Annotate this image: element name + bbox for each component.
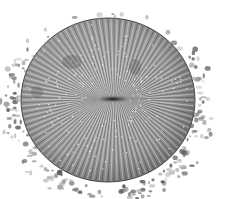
gravel-pebble: [24, 171, 30, 173]
gravel-pebble: [140, 188, 145, 192]
highlight-dot: [133, 85, 134, 86]
highlight-dot: [79, 110, 80, 111]
highlight-dot: [141, 80, 142, 81]
highlight-dot: [162, 91, 163, 92]
highlight-dot: [149, 117, 150, 118]
gravel-pebble: [23, 142, 29, 147]
gravel-pebble: [44, 167, 47, 171]
highlight-dot: [57, 84, 58, 85]
gravel-pebble: [72, 16, 78, 19]
highlight-dot: [105, 161, 106, 162]
gravel-pebble: [47, 36, 49, 38]
gravel-pebble: [202, 120, 206, 125]
highlight-dot: [94, 141, 95, 142]
highlight-dot: [60, 160, 61, 161]
gravel-pebble: [85, 184, 88, 187]
highlight-dot: [85, 138, 86, 139]
highlight-dot: [85, 97, 86, 98]
highlight-dot: [145, 111, 146, 112]
highlight-dot: [68, 103, 69, 104]
highlight-dot: [133, 95, 134, 96]
gravel-pebble: [147, 195, 151, 197]
gravel-pebble: [192, 47, 198, 52]
highlight-dot: [186, 88, 187, 89]
gravel-pebble: [162, 181, 166, 186]
highlight-dot: [102, 64, 103, 65]
highlight-dot: [180, 79, 181, 80]
highlight-dot: [49, 146, 50, 147]
highlight-dot: [95, 45, 96, 46]
gravel-pebble: [18, 140, 20, 142]
highlight-dot: [161, 129, 162, 130]
gravel-pebble: [69, 181, 74, 186]
gravel-pebble: [120, 12, 124, 17]
highlight-dot: [136, 141, 137, 142]
highlight-dot: [142, 109, 143, 110]
highlight-dot: [180, 82, 181, 83]
highlight-dot: [27, 86, 28, 87]
gravel-pebble: [22, 159, 27, 163]
highlight-dot: [68, 78, 69, 79]
gravel-pebble: [140, 180, 146, 184]
highlight-dot: [140, 105, 141, 106]
highlight-dot: [171, 81, 172, 82]
highlight-dot: [80, 55, 81, 56]
gravel-pebble: [29, 170, 32, 175]
gravel-pebble: [172, 42, 175, 45]
blotch-left: [62, 55, 82, 69]
gravel-pebble: [177, 159, 182, 163]
highlight-dot: [48, 78, 49, 79]
gravel-pebble: [7, 117, 13, 120]
gravel-pebble: [44, 28, 48, 32]
gravel-pebble: [204, 136, 209, 139]
gravel-pebble: [202, 80, 204, 83]
highlight-dot: [55, 105, 56, 106]
gravel-pebble: [16, 114, 21, 117]
highlight-dot: [48, 104, 49, 105]
highlight-dot: [96, 137, 97, 138]
highlight-dot: [157, 139, 158, 140]
gravel-pebble: [69, 179, 73, 181]
gravel-pebble: [22, 60, 26, 65]
gravel-pebble: [166, 30, 171, 35]
highlight-dot: [121, 136, 122, 137]
gravel-pebble: [165, 177, 168, 181]
highlight-dot: [82, 85, 83, 86]
gravel-pebble: [5, 94, 8, 96]
highlight-dot: [126, 71, 127, 72]
highlight-dot: [137, 94, 138, 95]
highlight-dot: [86, 145, 87, 146]
gravel-pebble: [135, 197, 139, 199]
gravel-pebble: [14, 119, 17, 124]
highlight-dot: [116, 136, 117, 137]
highlight-dot: [61, 122, 62, 123]
gravel-pebble: [166, 168, 171, 172]
highlight-dot: [91, 78, 92, 79]
gravel-pebble: [196, 161, 199, 164]
gravel-pebble: [189, 165, 195, 168]
highlight-dot: [58, 71, 59, 72]
highlight-dot: [51, 111, 52, 112]
highlight-dot: [127, 35, 128, 36]
gravel-pebble: [149, 184, 155, 188]
highlight-dot: [135, 107, 136, 108]
highlight-dot: [56, 73, 57, 74]
gravel-pebble: [181, 146, 185, 149]
highlight-dot: [111, 68, 112, 69]
highlight-dot: [133, 84, 134, 85]
highlight-dot: [102, 126, 103, 127]
gravel-pebble: [203, 73, 205, 78]
gravel-pebble: [51, 169, 54, 171]
highlight-dot: [58, 40, 59, 41]
coral-illustration: [0, 0, 225, 199]
highlight-dot: [98, 49, 99, 50]
highlight-dot: [140, 78, 141, 79]
gravel-pebble: [97, 12, 103, 17]
highlight-dot: [159, 139, 160, 140]
gravel-pebble: [16, 95, 18, 100]
highlight-dot: [29, 87, 30, 88]
gravel-pebble: [113, 15, 116, 18]
gravel-pebble: [132, 193, 136, 195]
gravel-pebble: [57, 170, 63, 176]
highlight-dot: [46, 81, 47, 82]
